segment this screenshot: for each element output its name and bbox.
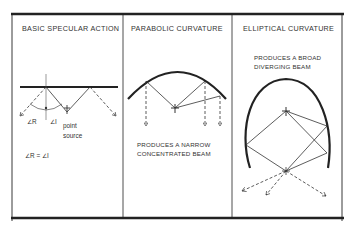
panel-elliptical: ELLIPTICAL CURVATURE PRODUCES A BROAD DI… [242, 24, 334, 196]
elliptical-reflector [246, 79, 330, 168]
caption-line-2: CONCENTRATED BEAM [137, 150, 211, 157]
caption-line-1: PRODUCES A BROAD [254, 54, 321, 61]
angle-i-label: ∠I [50, 118, 57, 125]
equation-label: ∠R = ∠I [25, 152, 49, 159]
panel-basic-specular: BASIC SPECULAR ACTION ∠R ∠I point source… [20, 24, 119, 159]
panel-title: BASIC SPECULAR ACTION [22, 24, 119, 33]
panel-title: ELLIPTICAL CURVATURE [243, 24, 334, 33]
angle-r-label: ∠R [27, 118, 37, 125]
reflector-diagram: BASIC SPECULAR ACTION ∠R ∠I point source… [0, 0, 354, 232]
caption-line-1: PRODUCES A NARROW [137, 141, 211, 148]
parabolic-reflector [128, 72, 226, 99]
point-label: point [63, 122, 77, 130]
caption-line-2: DIVERGING BEAM [254, 63, 311, 70]
source-label: source [63, 132, 83, 139]
panel-title: PARABOLIC CURVATURE [131, 24, 223, 33]
panel-parabolic: PARABOLIC CURVATURE PRODUCES A NARROW CO… [128, 24, 226, 157]
frame [11, 13, 344, 221]
